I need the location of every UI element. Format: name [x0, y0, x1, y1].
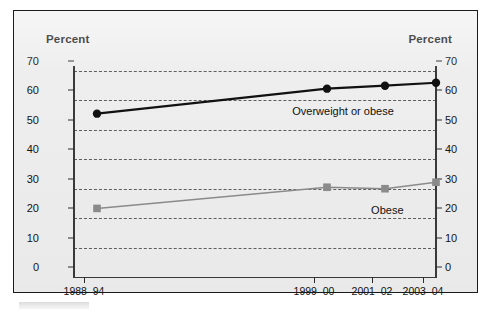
right-axis-line	[435, 66, 437, 278]
left-tick-mark-0	[68, 267, 74, 268]
x-tick-mark-3	[423, 277, 424, 283]
left-tick-mark-70	[68, 61, 74, 62]
left-tick-mark-10	[68, 237, 74, 238]
x-tick-mark-2	[372, 277, 373, 283]
gridline-30	[74, 189, 436, 190]
x-tick-label-3: 2003–04	[403, 285, 444, 297]
x-tick-mark-1	[314, 277, 315, 283]
right-tick-label-10: 10	[445, 232, 457, 244]
right-tick-label-40: 40	[445, 143, 457, 155]
gridline-10	[74, 248, 436, 249]
left-tick-mark-50	[68, 119, 74, 120]
left-tick-label-50: 50	[27, 114, 39, 126]
right-tick-mark-70	[436, 61, 442, 62]
right-tick-label-30: 30	[445, 173, 457, 185]
right-tick-label-20: 20	[445, 202, 457, 214]
right-tick-label-70: 70	[445, 55, 457, 67]
left-tick-label-40: 40	[27, 143, 39, 155]
right-tick-mark-40	[436, 149, 442, 150]
right-tick-mark-50	[436, 119, 442, 120]
left-tick-label-30: 30	[27, 173, 39, 185]
left-tick-label-60: 60	[27, 84, 39, 96]
x-tick-label-1: 1999–00	[294, 285, 335, 297]
right-tick-mark-30	[436, 178, 442, 179]
right-tick-mark-10	[436, 237, 442, 238]
plot-area	[74, 66, 436, 277]
right-tick-label-0: 0	[445, 261, 451, 273]
x-tick-mark-0	[84, 277, 85, 283]
right-tick-label-50: 50	[445, 114, 457, 126]
chart-frame: Percent Percent 001010202030304040505060…	[13, 10, 478, 293]
gridline-20	[74, 218, 436, 219]
gridline-70	[74, 71, 436, 72]
left-tick-mark-40	[68, 149, 74, 150]
scanned-page: Percent Percent 001010202030304040505060…	[0, 0, 494, 315]
right-axis-title: Percent	[408, 33, 452, 45]
series-annotation-obese: Obese	[371, 204, 403, 216]
gridline-60	[74, 100, 436, 101]
left-tick-label-70: 70	[27, 55, 39, 67]
x-axis-line	[74, 277, 436, 279]
left-tick-mark-20	[68, 208, 74, 209]
right-tick-mark-0	[436, 267, 442, 268]
left-axis-title: Percent	[46, 33, 90, 45]
right-tick-label-60: 60	[445, 84, 457, 96]
left-tick-label-10: 10	[27, 232, 39, 244]
left-tick-label-0: 0	[33, 261, 39, 273]
x-tick-label-0: 1988–94	[64, 285, 105, 297]
gridline-50	[74, 130, 436, 131]
right-tick-mark-20	[436, 208, 442, 209]
left-axis-line	[73, 66, 75, 278]
left-tick-mark-30	[68, 178, 74, 179]
scan-artifact	[19, 302, 89, 309]
series-annotation-overweight-or-obese: Overweight or obese	[292, 105, 394, 117]
left-tick-mark-60	[68, 90, 74, 91]
left-tick-label-20: 20	[27, 202, 39, 214]
x-tick-label-2: 2001–02	[352, 285, 393, 297]
right-tick-mark-60	[436, 90, 442, 91]
gridline-40	[74, 159, 436, 160]
